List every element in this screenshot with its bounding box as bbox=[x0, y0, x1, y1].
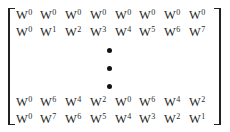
left-bracket bbox=[8, 8, 15, 125]
ellipsis-dot bbox=[107, 48, 112, 53]
matrix-cell: W0 bbox=[139, 8, 155, 24]
matrix-cell: W6 bbox=[139, 95, 155, 111]
matrix-cell: W4 bbox=[65, 95, 81, 111]
matrix-cell: W0 bbox=[16, 112, 32, 128]
matrix-cell: W3 bbox=[90, 25, 106, 41]
matrix-cell: W4 bbox=[115, 25, 131, 41]
matrix-cell: W6 bbox=[40, 95, 56, 111]
ellipsis-dot bbox=[107, 66, 112, 71]
matrix-cell: W2 bbox=[164, 112, 180, 128]
matrix-cell: W6 bbox=[65, 112, 81, 128]
matrix-cell: W6 bbox=[164, 25, 180, 41]
ellipsis-dot bbox=[107, 84, 112, 89]
matrix-cell: W2 bbox=[90, 95, 106, 111]
matrix-cell: W0 bbox=[115, 8, 131, 24]
matrix-cell: W0 bbox=[189, 8, 205, 24]
matrix-cell: W0 bbox=[115, 95, 131, 111]
right-bracket bbox=[214, 8, 221, 125]
matrix-cell: W0 bbox=[40, 8, 56, 24]
matrix-cell: W0 bbox=[164, 8, 180, 24]
matrix-cell: W4 bbox=[115, 112, 131, 128]
matrix-cell: W0 bbox=[16, 95, 32, 111]
matrix-cell: W1 bbox=[40, 25, 56, 41]
matrix-cell: W0 bbox=[16, 25, 32, 41]
matrix-cell: W2 bbox=[189, 95, 205, 111]
matrix-cell: W7 bbox=[189, 25, 205, 41]
matrix-cell: W0 bbox=[90, 8, 106, 24]
matrix-cell: W4 bbox=[164, 95, 180, 111]
matrix-cell: W5 bbox=[90, 112, 106, 128]
matrix-cell: W2 bbox=[65, 25, 81, 41]
matrix-cell: W0 bbox=[16, 8, 32, 24]
matrix-cell: W5 bbox=[139, 25, 155, 41]
matrix-cell: W0 bbox=[65, 8, 81, 24]
matrix-cell: W3 bbox=[139, 112, 155, 128]
matrix-cell: W1 bbox=[189, 112, 205, 128]
matrix-cell: W7 bbox=[40, 112, 56, 128]
